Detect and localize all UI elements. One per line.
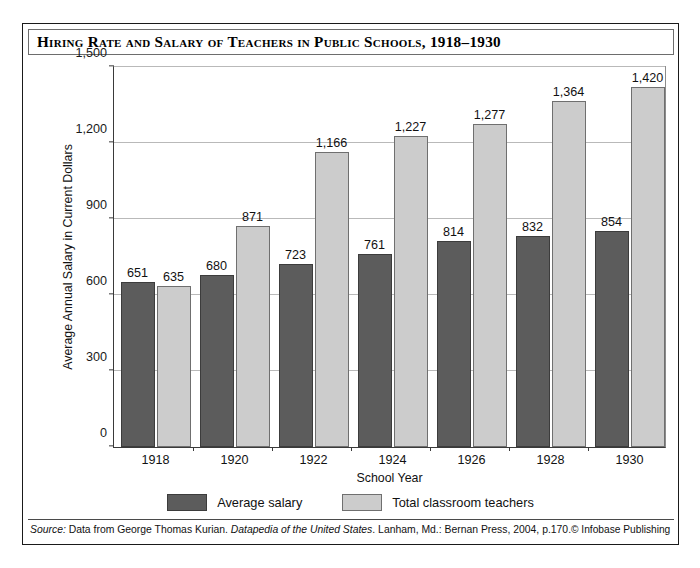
y-axis-tick-label: 1,500 xyxy=(75,46,114,60)
bar-average-salary[interactable]: 723 xyxy=(279,264,313,447)
legend-label: Average salary xyxy=(217,495,302,510)
bar-value-label: 651 xyxy=(127,266,148,280)
chart-title-box: Hiring Rate and Salary of Teachers in Pu… xyxy=(28,29,674,55)
x-axis-title: School Year xyxy=(113,471,666,485)
copyright-notice: © Infobase Publishing xyxy=(571,524,676,535)
bar-average-salary[interactable]: 680 xyxy=(200,275,234,447)
bar-value-label: 854 xyxy=(601,215,622,229)
x-axis-tick-mark xyxy=(351,447,352,451)
source-italic-title: Datapedia of the United States xyxy=(231,524,373,535)
bar-value-label: 680 xyxy=(206,259,227,273)
legend-label: Total classroom teachers xyxy=(392,495,534,510)
x-axis-tick-mark xyxy=(193,447,194,451)
bar-total-classroom-teachers[interactable]: 1,364 xyxy=(552,101,586,447)
bar-total-classroom-teachers[interactable]: 1,166 xyxy=(315,152,349,447)
bar-group: 680871 xyxy=(200,67,270,447)
x-axis-tick-mark xyxy=(509,447,510,451)
y-axis-tick-label: 900 xyxy=(86,198,114,212)
bar-value-label: 761 xyxy=(364,238,385,252)
bar-value-label: 1,364 xyxy=(553,85,585,99)
bar-total-classroom-teachers[interactable]: 635 xyxy=(157,286,191,447)
bar-total-classroom-teachers[interactable]: 871 xyxy=(236,226,270,447)
y-axis-tick-mark xyxy=(109,293,114,294)
bar-value-label: 1,277 xyxy=(474,108,506,122)
y-axis-tick-mark xyxy=(109,369,114,370)
x-axis-tick-label: 1918 xyxy=(121,453,191,467)
bar-group: 651635 xyxy=(121,67,191,447)
bar-value-label: 723 xyxy=(285,248,306,262)
y-axis-tick-label: 1,200 xyxy=(75,122,114,136)
bar-value-label: 832 xyxy=(522,220,543,234)
legend-item[interactable]: Average salary xyxy=(167,494,302,511)
bar-average-salary[interactable]: 854 xyxy=(595,231,629,447)
chart-figure: Hiring Rate and Salary of Teachers in Pu… xyxy=(22,23,679,545)
bar-total-classroom-teachers[interactable]: 1,227 xyxy=(394,136,428,447)
bar-group: 8541,420 xyxy=(595,67,665,447)
y-axis-tick-mark xyxy=(109,217,114,218)
x-axis-tick-label: 1922 xyxy=(279,453,349,467)
chart-legend: Average salaryTotal classroom teachers xyxy=(23,494,678,511)
source-prefix: Source: xyxy=(30,524,66,535)
x-axis-tick-label: 1926 xyxy=(437,453,507,467)
bar-group: 7231,166 xyxy=(279,67,349,447)
bar-group: 8141,277 xyxy=(437,67,507,447)
x-axis-tick-label: 1930 xyxy=(595,453,665,467)
bar-value-label: 635 xyxy=(163,270,184,284)
bar-total-classroom-teachers[interactable]: 1,420 xyxy=(631,87,665,447)
bar-average-salary[interactable]: 832 xyxy=(516,236,550,447)
plot-wrapper: Average Annual Salary in Current Dollars… xyxy=(23,56,678,488)
y-axis-tick-mark xyxy=(109,65,114,66)
plot-area: 03006009001,2001,500 6516356808717231,16… xyxy=(113,66,666,448)
legend-swatch-average-salary xyxy=(167,494,207,511)
bar-average-salary[interactable]: 814 xyxy=(437,241,471,447)
source-body-2: . Lanham, Md.: Bernan Press, 2004, p.170… xyxy=(372,524,571,535)
bar-value-label: 1,420 xyxy=(632,71,664,85)
source-row: Source: Data from George Thomas Kurian. … xyxy=(30,524,674,535)
source-divider xyxy=(28,519,674,520)
y-axis-tick-mark xyxy=(109,445,114,446)
y-axis-tick-mark xyxy=(109,141,114,142)
source-note: Source: Data from George Thomas Kurian. … xyxy=(30,524,571,535)
x-axis-tick-label: 1924 xyxy=(358,453,428,467)
x-axis-tick-label: 1928 xyxy=(516,453,586,467)
source-body-1: Data from George Thomas Kurian. xyxy=(66,524,231,535)
y-axis-tick-label: 0 xyxy=(100,426,114,440)
bar-value-label: 814 xyxy=(443,225,464,239)
bar-value-label: 1,227 xyxy=(395,120,427,134)
x-axis-tick-mark xyxy=(588,447,589,451)
y-axis-title-text: Average Annual Salary in Current Dollars xyxy=(61,144,75,370)
x-axis-tick-mark xyxy=(272,447,273,451)
bar-value-label: 1,166 xyxy=(316,136,348,150)
bar-total-classroom-teachers[interactable]: 1,277 xyxy=(473,124,507,448)
legend-item[interactable]: Total classroom teachers xyxy=(342,494,534,511)
y-axis-tick-label: 300 xyxy=(86,350,114,364)
bar-average-salary[interactable]: 651 xyxy=(121,282,155,447)
bar-value-label: 871 xyxy=(242,210,263,224)
y-axis-tick-label: 600 xyxy=(86,274,114,288)
bar-group: 8321,364 xyxy=(516,67,586,447)
x-axis-tick-mark xyxy=(430,447,431,451)
bar-group: 7611,227 xyxy=(358,67,428,447)
x-axis-tick-label: 1920 xyxy=(200,453,270,467)
legend-swatch-total-classroom-teachers xyxy=(342,494,382,511)
bar-average-salary[interactable]: 761 xyxy=(358,254,392,447)
